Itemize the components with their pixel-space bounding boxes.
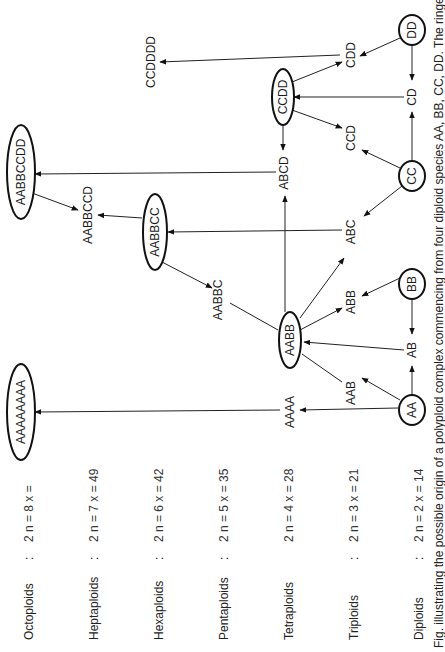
ploidy-sep-diploids: : — [412, 557, 426, 560]
ploidy-label-tetraploids: Tetraploids — [282, 582, 296, 640]
node-aa: AA — [405, 402, 419, 418]
node-ccd: CCD — [344, 125, 358, 151]
node-aabbccd: AABBCCD — [81, 186, 95, 244]
node-aabbcc: AABBCC — [148, 207, 162, 257]
node-abb: ABB — [344, 290, 358, 314]
edge-aab-aabb — [302, 354, 342, 382]
ploidy-label-diploids: Diploids — [412, 597, 426, 640]
ploidy-formula-octoploids: 2 n = 8 x = — [22, 485, 36, 542]
edge-abc-aabbcc — [168, 230, 342, 232]
ploidy-formula-hexaploids: 2 n = 6 x = 42 — [152, 468, 166, 542]
edge-aaaa-aaaaaaaa — [35, 410, 280, 412]
edge-cc-abc — [364, 186, 402, 216]
ploidy-label-triploids: Triploids — [347, 595, 361, 640]
node-abc: ABC — [344, 219, 358, 244]
node-dd: DD — [405, 21, 419, 39]
node-aabbc: AABBC — [211, 279, 225, 320]
edge-cdd-ccdddd — [160, 55, 340, 62]
node-bb: BB — [405, 276, 419, 292]
ploidy-formula-triploids: 2 n = 3 x = 21 — [347, 468, 361, 542]
node-ccdd: CCDD — [276, 79, 290, 114]
node-aabb: AABB — [283, 324, 297, 356]
ploidy-sep-triploids: : — [347, 557, 361, 560]
ploidy-sep-pentaploids: : — [217, 557, 231, 560]
ploidy-label-pentaploids: Pentaploids — [217, 577, 231, 640]
edge-aabbcc-aabbccd — [98, 215, 142, 218]
edge-aa-aab — [362, 378, 400, 400]
edge-ccdd-cdd — [292, 62, 342, 82]
ploidy-sep-hexaploids: : — [152, 557, 166, 560]
rings — [7, 15, 425, 460]
edge-aa-aaaa — [300, 408, 398, 410]
node-cdd: CDD — [344, 42, 358, 68]
ploidy-label-octoploids: Octoploids — [22, 583, 36, 640]
node-aab: AAB — [344, 381, 358, 405]
ploidy-sep-heptaploids: : — [87, 557, 101, 560]
edge-aabb-abc — [300, 258, 344, 318]
node-aabbccdd: AABBCCDD — [14, 138, 28, 205]
node-abcd: ABCD — [277, 156, 291, 190]
ploidy-formula-heptaploids: 2 n = 7 x = 49 — [87, 468, 101, 542]
ploidy-formula-tetraploids: 2 n = 4 x = 28 — [282, 468, 296, 542]
node-aaaa: AAAA — [283, 396, 297, 428]
edge-dd-cdd — [360, 38, 400, 56]
node-ab: AB — [405, 342, 419, 358]
edge-abcd-aabbccdd — [35, 172, 276, 174]
node-cd: CD — [405, 88, 419, 106]
edge-ab-aabb — [304, 342, 404, 350]
node-ccdddd: CCDDDD — [144, 36, 158, 88]
edge-ccdd-ccd — [292, 110, 342, 128]
node-cc: CC — [405, 167, 419, 185]
edge-bb-abb — [362, 278, 400, 296]
polyploid-complex-diagram: AABBCCDD AAAAAAAA CCDDDD AABBCCD AABBCC … — [0, 0, 445, 652]
ploidy-label-heptaploids: Heptaploids — [87, 577, 101, 640]
edge-cc-ccd — [362, 150, 400, 168]
ploidy-formula-diploids: 2 n = 2 x = 14 — [412, 468, 426, 542]
ploidy-formula-pentaploids: 2 n = 5 x = 35 — [217, 468, 231, 542]
edge-aabb-aabbc — [230, 303, 278, 330]
edge-aabb-abb — [300, 308, 342, 330]
node-aaaaaaaa: AAAAAAAA — [14, 380, 28, 444]
figure-caption: Fig. illustrating the possible origin of… — [432, 0, 445, 648]
edge-aabbccdd-aabbccd — [32, 193, 78, 210]
node-labels: AABBCCDD AAAAAAAA CCDDDD AABBCCD AABBCC … — [14, 21, 419, 444]
ploidy-sep-octoploids: : — [22, 557, 36, 560]
ploidy-label-hexaploids: Hexaploids — [152, 581, 166, 640]
edge-aabbcc-aabbc — [162, 262, 212, 288]
ploidy-labels: Octoploids : 2 n = 8 x = Heptaploids : 2… — [22, 468, 426, 640]
